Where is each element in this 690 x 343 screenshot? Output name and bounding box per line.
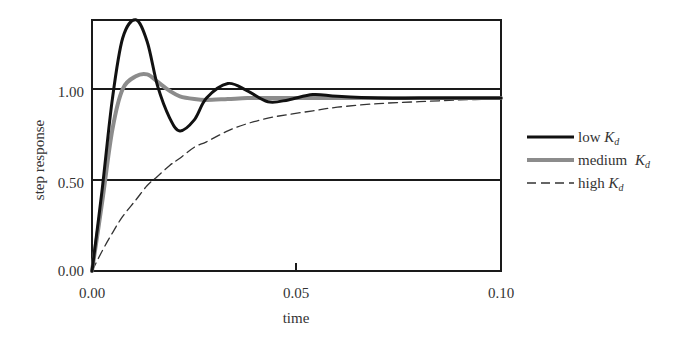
legend: low Kd medium Kd high Kd xyxy=(527,129,651,193)
step-response-chart: 0.00 0.50 1.00 0.00 0.05 0.10 time step … xyxy=(0,0,690,343)
plot-frame xyxy=(92,20,501,271)
x-tick-label-0: 0.00 xyxy=(79,285,105,301)
series-group xyxy=(92,20,501,271)
y-axis-label: step response xyxy=(31,119,47,200)
series-line-low xyxy=(92,20,501,271)
y-tick-label-0: 0.00 xyxy=(58,263,84,279)
legend-label-low: low Kd xyxy=(578,129,620,147)
y-tick-label-2: 1.00 xyxy=(58,84,84,100)
series-line-high xyxy=(92,99,501,271)
legend-label-high: high Kd xyxy=(578,175,624,193)
legend-label-medium: medium Kd xyxy=(578,152,651,170)
x-tick-label-2: 0.10 xyxy=(488,285,514,301)
series-line-medium xyxy=(92,74,501,271)
y-tick-label-1: 0.50 xyxy=(58,175,84,191)
x-tick-label-1: 0.05 xyxy=(283,285,309,301)
gridlines xyxy=(92,89,501,180)
x-axis-label: time xyxy=(283,310,310,326)
